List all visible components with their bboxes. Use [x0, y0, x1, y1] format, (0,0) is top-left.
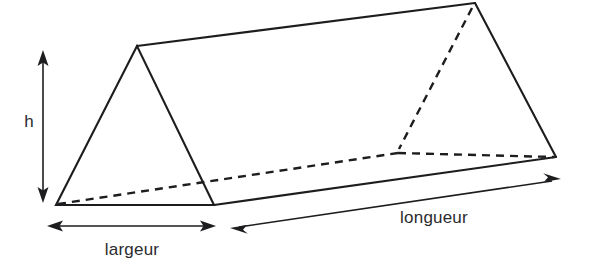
triangular-prism-figure: h largeur longueur	[0, 0, 592, 269]
bottom-right-lateral-edge	[214, 157, 556, 205]
length-arrowhead-left-icon	[230, 225, 248, 234]
hidden-edges-group	[58, 8, 554, 204]
width-label: largeur	[105, 240, 159, 259]
hidden-edge-bottom-back-left-to-back-right	[398, 153, 554, 157]
length-arrowhead-right-icon	[543, 173, 561, 182]
hidden-edge-back-apex-to-back-bottom-left	[399, 8, 472, 149]
solid-edges-group	[56, 3, 556, 205]
length-dimension-group: longueur	[230, 173, 561, 234]
height-dimension-group: h	[24, 50, 48, 203]
length-label: longueur	[400, 208, 468, 227]
back-face-right-edge	[475, 3, 556, 157]
prism-diagram-canvas: h largeur longueur	[0, 0, 592, 269]
hidden-edge-bottom-front-left-to-back-left	[58, 153, 398, 204]
top-ridge-edge	[137, 3, 475, 46]
length-dimension-line	[239, 181, 552, 227]
front-face-triangle	[56, 46, 214, 205]
height-label: h	[24, 112, 34, 131]
width-dimension-group: largeur	[47, 221, 216, 260]
